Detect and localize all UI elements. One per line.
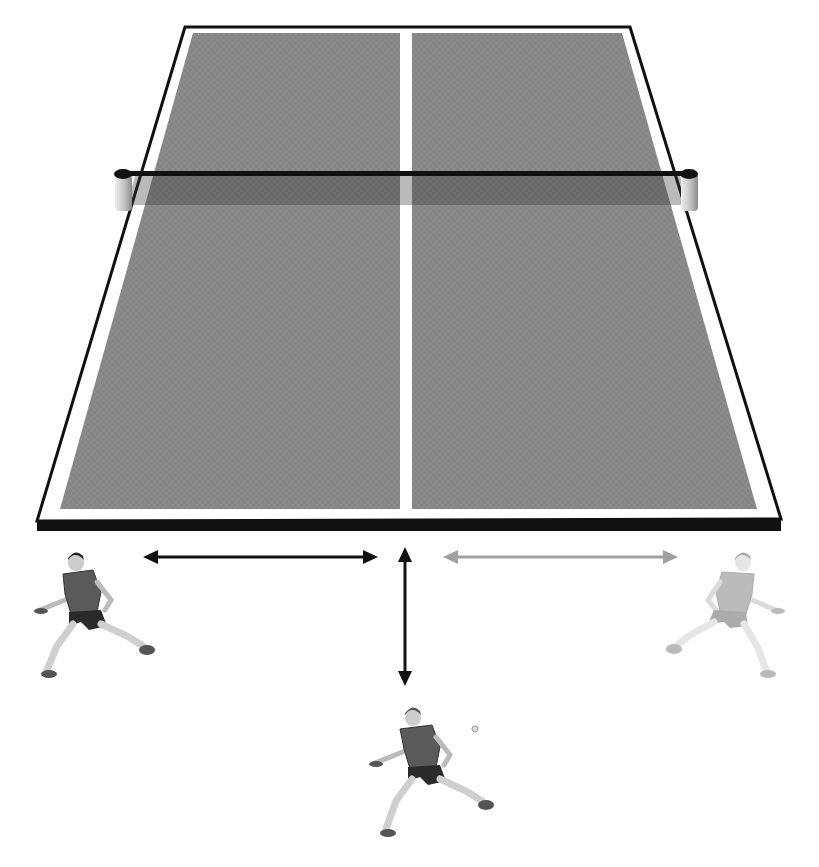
arrow-right-lateral	[443, 550, 678, 564]
table	[37, 27, 781, 531]
arrow-forward-backward	[398, 547, 412, 686]
net-shadow	[127, 176, 690, 205]
player-right	[666, 552, 785, 678]
net	[122, 171, 690, 176]
arrow-left-lateral	[143, 550, 378, 564]
table-tennis-diagram	[0, 0, 819, 867]
player-left	[34, 552, 155, 678]
movement-arrows	[143, 547, 678, 686]
ball	[472, 726, 478, 732]
